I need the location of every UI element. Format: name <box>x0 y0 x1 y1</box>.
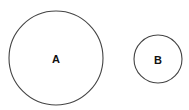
circle-a: A <box>9 11 103 105</box>
diagram-canvas: A B <box>0 0 189 110</box>
circle-b: B <box>134 35 182 83</box>
circle-b-label: B <box>154 54 162 66</box>
circles-diagram: A B <box>0 0 189 110</box>
circle-a-label: A <box>52 53 60 65</box>
